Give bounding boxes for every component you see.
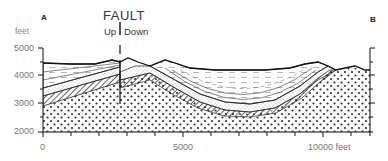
cross-section-diagram: A B FAULT Up Down feet 5000 4000 3000 20… (0, 0, 388, 161)
cross-section-graphic (0, 0, 388, 161)
x-tick-10000: 10000 feet (308, 143, 351, 152)
y-tick-5000: 5000 (14, 44, 34, 53)
fault-up-label: Up (104, 27, 116, 37)
fault-title: FAULT (103, 9, 145, 22)
y-tick-3000: 3000 (14, 99, 34, 108)
x-tick-0: 0 (40, 143, 45, 152)
y-tick-2000: 2000 (14, 127, 34, 136)
strata (43, 58, 370, 132)
x-tick-5000: 5000 (173, 143, 193, 152)
y-axis-left (38, 48, 43, 132)
y-axis-right (370, 48, 375, 132)
y-tick-4000: 4000 (14, 71, 34, 80)
x-axis (38, 132, 373, 137)
y-axis-unit-label: feet (15, 27, 29, 36)
endpoint-b-label: B (370, 16, 376, 24)
fault-down-label: Down (124, 27, 148, 37)
endpoint-a-label: A (41, 14, 47, 22)
